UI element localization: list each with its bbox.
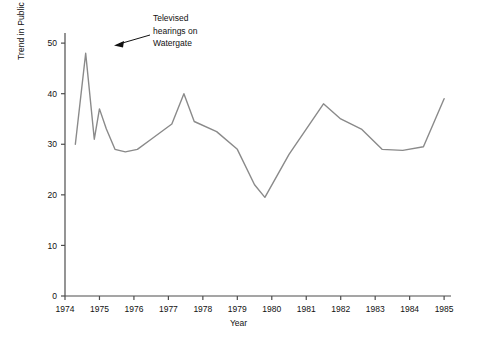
x-tick-label: 1978 (193, 304, 212, 314)
x-tick-label: 1979 (228, 304, 247, 314)
x-tick-label: 1981 (297, 304, 316, 314)
x-axis-ticks: 1974197519761977197819791980198119821983… (56, 296, 454, 314)
data-series-line (75, 53, 444, 197)
chart-container: Trend in Public Approval of Congress (in… (0, 0, 477, 338)
x-tick-label: 1985 (435, 304, 454, 314)
x-tick-label: 1974 (56, 304, 75, 314)
y-tick-label: 50 (48, 38, 58, 48)
y-tick-label: 30 (48, 139, 58, 149)
x-tick-label: 1983 (366, 304, 385, 314)
x-tick-label: 1977 (159, 304, 178, 314)
y-tick-label: 0 (52, 291, 57, 301)
y-tick-label: 10 (48, 241, 58, 251)
axes (65, 33, 451, 296)
x-tick-label: 1984 (400, 304, 419, 314)
x-tick-label: 1980 (262, 304, 281, 314)
annotation-arrow (114, 35, 150, 48)
y-tick-label: 40 (48, 89, 58, 99)
chart-svg: 01020304050 1974197519761977197819791980… (0, 0, 477, 338)
x-tick-label: 1976 (124, 304, 143, 314)
y-axis-ticks: 01020304050 (48, 38, 65, 301)
y-tick-label: 20 (48, 190, 58, 200)
x-tick-label: 1982 (331, 304, 350, 314)
x-tick-label: 1975 (90, 304, 109, 314)
